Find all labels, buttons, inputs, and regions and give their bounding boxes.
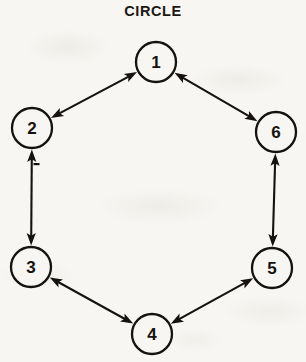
node-5[interactable]: 5 (252, 248, 292, 288)
node-label-3: 3 (26, 258, 35, 277)
node-label-2: 2 (27, 119, 36, 138)
edge-n4-n5 (171, 278, 253, 323)
node-label-1: 1 (151, 53, 160, 72)
scan-artifact-speck (34, 163, 40, 165)
node-label-5: 5 (267, 259, 276, 278)
node-6[interactable]: 6 (256, 112, 296, 152)
circle-topology-diagram: 123456 (0, 0, 306, 362)
edge-n5-n6 (268, 153, 279, 246)
node-label-4: 4 (147, 325, 157, 344)
node-1[interactable]: 1 (136, 42, 176, 82)
edge-n1-n2 (51, 72, 137, 118)
edges-layer (27, 72, 280, 324)
figure-root: CIRCLE 123456 (0, 0, 306, 362)
edge-n6-n1 (175, 73, 258, 121)
edge-n3-n4 (50, 277, 133, 323)
node-3[interactable]: 3 (11, 247, 51, 287)
node-2[interactable]: 2 (12, 108, 52, 148)
node-label-6: 6 (271, 123, 280, 142)
node-4[interactable]: 4 (132, 314, 172, 354)
nodes-layer: 123456 (11, 42, 296, 354)
